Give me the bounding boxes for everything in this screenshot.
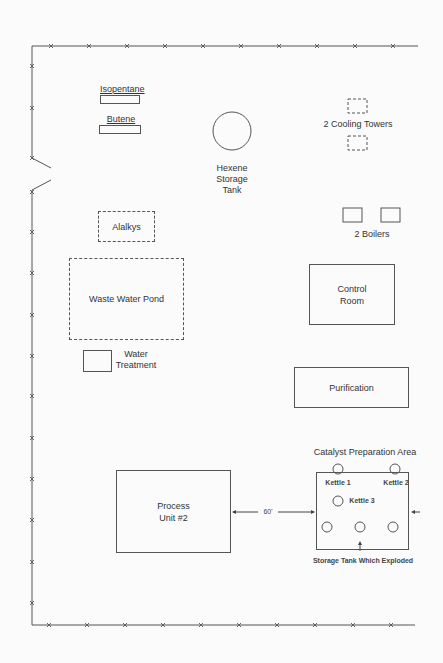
kettle-1-label: Kettle 1 <box>322 478 354 487</box>
boiler-2 <box>381 208 400 222</box>
exploded-tank-label: Storage Tank Which Exploded <box>308 556 418 565</box>
process-unit-2: Process Unit #2 <box>116 470 231 553</box>
distance-label: 60' <box>258 507 278 516</box>
cooling-tower-2 <box>348 136 367 150</box>
arrow-right-icon <box>311 510 315 514</box>
butene-tank <box>99 125 141 134</box>
purification-unit: Purification <box>294 367 409 408</box>
waste-water-pond: Waste Water Pond <box>69 258 184 340</box>
alalkys-unit: Alalkys <box>98 211 155 242</box>
hexene-tank-shape <box>213 112 251 150</box>
isopentane-label: Isopentane <box>100 84 142 95</box>
arrow-west-icon <box>411 510 415 514</box>
catalyst-area-label: Catalyst Preparation Area <box>310 447 420 458</box>
gate-leaf-lower <box>32 180 51 190</box>
boiler-1 <box>343 208 362 222</box>
hexene-tank-label: Hexene Storage Tank <box>210 163 254 196</box>
control-room: Control Room <box>309 264 395 325</box>
water-treatment-label: Water Treatment <box>114 349 158 371</box>
cooling-tower-1 <box>348 99 367 113</box>
cooling-towers-label: 2 Cooling Towers <box>320 119 396 130</box>
butene-label: Butene <box>100 114 142 125</box>
boilers-label: 2 Boilers <box>350 229 394 240</box>
isopentane-tank <box>100 95 140 104</box>
arrow-left-icon <box>232 510 236 514</box>
fence-top <box>32 46 418 158</box>
kettle-3-label: Kettle 3 <box>346 496 378 505</box>
kettle-2-label: Kettle 2 <box>380 478 412 487</box>
gate-leaf-upper <box>32 158 51 168</box>
water-treatment-unit <box>83 350 112 372</box>
